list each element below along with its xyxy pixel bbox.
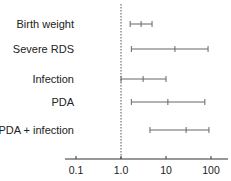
- row-label: PDA + infection: [0, 124, 74, 136]
- row-label: Birth weight: [17, 18, 74, 30]
- x-tick-label: 1.0: [114, 164, 129, 176]
- x-tick-label: 0.1: [69, 164, 84, 176]
- row-label: PDA: [51, 96, 74, 108]
- forest-plot: 0.11.010100Birth weightSevere RDSInfecti…: [0, 0, 231, 181]
- x-tick-label: 100: [202, 164, 220, 176]
- x-tick-label: 10: [160, 164, 172, 176]
- row-label: Infection: [32, 73, 74, 85]
- row-label: Severe RDS: [13, 43, 74, 55]
